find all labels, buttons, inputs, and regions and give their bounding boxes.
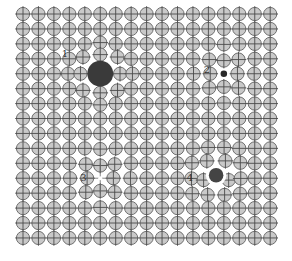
atom <box>77 6 93 22</box>
defect-4-atom <box>209 168 224 183</box>
atom <box>262 215 278 231</box>
atom <box>200 140 216 156</box>
atom <box>92 97 108 113</box>
atom <box>123 111 139 127</box>
atom <box>46 111 62 127</box>
atom <box>62 200 78 216</box>
atom <box>170 51 186 67</box>
atom <box>201 96 217 112</box>
atom <box>154 200 170 216</box>
atom <box>123 230 139 246</box>
atom <box>107 156 123 172</box>
atom <box>139 81 155 97</box>
atom <box>46 96 62 112</box>
atom <box>31 111 47 127</box>
atom <box>154 126 170 142</box>
atom <box>186 66 202 82</box>
atom <box>247 200 263 216</box>
atom <box>15 36 31 52</box>
atom <box>232 111 248 127</box>
atom <box>139 111 155 127</box>
atom <box>170 230 186 246</box>
atom <box>15 170 31 186</box>
atom <box>46 36 62 52</box>
atom <box>170 156 186 172</box>
atom <box>185 36 201 52</box>
atom <box>154 6 170 22</box>
atom <box>107 184 123 200</box>
atom <box>77 200 93 216</box>
atom <box>31 200 47 216</box>
atom <box>46 126 62 142</box>
atom <box>201 230 217 246</box>
atom <box>92 6 108 22</box>
atom <box>170 141 186 157</box>
atom <box>139 126 155 142</box>
atom <box>233 155 249 171</box>
atom <box>15 230 31 246</box>
atom <box>62 6 78 22</box>
atom <box>185 200 201 216</box>
atom <box>15 185 31 201</box>
atom <box>262 66 278 82</box>
atom <box>92 47 108 63</box>
atom <box>123 21 139 37</box>
atom <box>15 6 31 22</box>
atom <box>201 6 217 22</box>
atom <box>77 141 93 157</box>
atom <box>15 111 31 127</box>
atom <box>216 215 232 231</box>
atom <box>247 96 263 112</box>
atom <box>247 230 263 246</box>
atom <box>46 66 62 82</box>
atom <box>170 170 186 186</box>
atom <box>15 51 31 67</box>
atom <box>216 111 232 127</box>
atom <box>62 230 78 246</box>
atom <box>123 185 139 201</box>
atom <box>62 111 78 127</box>
atom <box>185 51 201 67</box>
atom <box>15 200 31 216</box>
atom <box>262 111 278 127</box>
atom <box>110 49 126 65</box>
atom <box>154 230 170 246</box>
atom-lattice <box>15 6 278 246</box>
atom <box>232 215 248 231</box>
defect-1-atom <box>87 61 113 87</box>
atom <box>232 6 248 22</box>
atom <box>201 215 217 231</box>
atom <box>216 95 232 111</box>
atom <box>247 170 263 186</box>
atom <box>15 81 31 97</box>
atom <box>77 111 93 127</box>
atom <box>262 126 278 142</box>
atom <box>123 170 139 186</box>
atom <box>139 230 155 246</box>
atom <box>170 36 186 52</box>
atom <box>15 96 31 112</box>
atom <box>170 81 186 97</box>
atom <box>31 66 47 82</box>
atom <box>184 186 200 202</box>
atom <box>230 66 246 82</box>
atom <box>123 6 139 22</box>
atom <box>139 6 155 22</box>
atom <box>15 141 31 157</box>
atom <box>170 200 186 216</box>
atom <box>262 36 278 52</box>
atom <box>139 215 155 231</box>
atom <box>154 66 170 82</box>
atom <box>92 215 108 231</box>
atom <box>247 185 263 201</box>
atom <box>232 36 248 52</box>
atom <box>92 200 108 216</box>
atom <box>78 184 94 200</box>
atom <box>216 140 232 156</box>
atom <box>108 111 124 127</box>
atom <box>185 215 201 231</box>
atom <box>92 126 108 142</box>
atom <box>154 96 170 112</box>
atom <box>139 36 155 52</box>
atom <box>262 6 278 22</box>
